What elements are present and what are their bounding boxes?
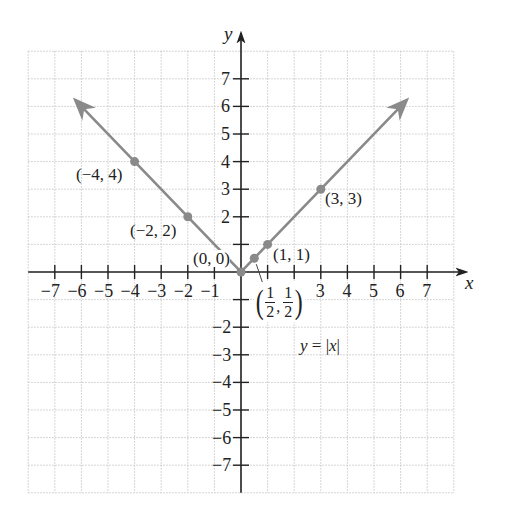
x-tick-label: 5: [369, 282, 378, 300]
equation-var: x: [329, 336, 337, 355]
fraction-x-den: 2: [266, 303, 274, 320]
x-tick-label: 3: [316, 282, 325, 300]
x-tick-label: −2: [174, 282, 193, 300]
x-tick-label: −5: [94, 282, 113, 300]
y-axis-label: y: [224, 24, 232, 43]
y-tick-label: −2: [212, 318, 231, 336]
y-tick-label: −4: [212, 373, 231, 391]
chart-canvas: [0, 0, 506, 518]
equation-eq: = |: [308, 336, 330, 355]
point-label-1-1: (1, 1): [273, 246, 310, 263]
y-tick-label: 7: [221, 70, 230, 88]
y-tick-label: −3: [212, 346, 231, 364]
point-label-half-half: ( 1 2 , 1 2 ): [254, 282, 305, 322]
point-label-neg4-4: (−4, 4): [76, 166, 122, 183]
x-tick-label: −4: [121, 282, 140, 300]
point-label-neg2-2: (−2, 2): [130, 222, 176, 239]
equation-label: y = |x|: [300, 337, 340, 354]
fraction-x-num: 1: [265, 285, 275, 303]
x-tick-label: −1: [200, 282, 219, 300]
point-label-3-3: (3, 3): [325, 190, 362, 207]
x-axis-label: x: [465, 273, 473, 292]
paren-open: (: [256, 285, 264, 319]
comma: ,: [276, 298, 280, 316]
equation-end: |: [337, 336, 340, 355]
y-tick-label: −6: [212, 429, 231, 447]
fraction-x: 1 2: [265, 285, 275, 320]
data-point: [263, 240, 272, 249]
y-tick-label: 6: [221, 97, 230, 115]
x-tick-label: −7: [41, 282, 60, 300]
y-tick-label: 2: [221, 208, 230, 226]
y-tick-label: −5: [212, 401, 231, 419]
x-tick-label: 6: [396, 282, 405, 300]
y-tick-label: 5: [221, 125, 230, 143]
data-point: [183, 212, 192, 221]
x-tick-label: 4: [342, 282, 351, 300]
x-tick-label: 7: [422, 282, 431, 300]
data-point: [237, 268, 246, 277]
y-tick-label: −7: [212, 456, 231, 474]
data-point: [130, 157, 139, 166]
data-point: [250, 254, 259, 263]
fraction-y-num: 1: [283, 285, 293, 303]
fraction-y: 1 2: [283, 285, 293, 320]
point-label-0-0: (0, 0): [193, 250, 230, 267]
fraction-y-den: 2: [284, 303, 292, 320]
paren-close: ): [295, 285, 303, 319]
x-tick-label: −3: [147, 282, 166, 300]
data-point: [316, 185, 325, 194]
y-tick-label: 4: [221, 153, 230, 171]
equation-lhs: y: [300, 336, 308, 355]
x-tick-label: −6: [67, 282, 86, 300]
y-tick-label: 3: [221, 180, 230, 198]
